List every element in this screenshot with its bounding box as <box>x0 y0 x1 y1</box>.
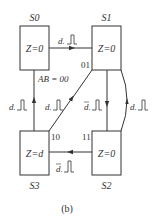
transition-s0-s1: d. <box>49 35 92 48</box>
condition-d-bar: d. <box>84 102 91 112</box>
state-s1-name: S1 <box>102 12 112 23</box>
state-s3-name: S3 <box>30 180 40 191</box>
transition-s1-s2: d. <box>84 70 107 131</box>
condition-d: d. <box>130 102 137 112</box>
clock-pulse-icon <box>53 100 63 110</box>
state-s2-name: S2 <box>102 180 112 191</box>
state-s1: S1 Z=0 <box>92 12 121 70</box>
state-code-s1: 01 <box>81 60 90 70</box>
state-code-s3: 10 <box>51 132 61 142</box>
transition-s2-s3: d. <box>49 152 92 174</box>
clock-pulse-icon <box>17 100 27 110</box>
state-code-s0: AB = 00 <box>37 74 69 84</box>
state-s1-output: Z=0 <box>98 43 115 54</box>
clock-pulse-icon <box>67 35 77 44</box>
transition-s2-s1: d. <box>121 70 148 131</box>
condition-d: d. <box>58 36 65 46</box>
condition-d: d. <box>45 102 52 112</box>
state-s0-output: Z=0 <box>26 43 43 54</box>
clock-pulse-icon <box>92 100 102 110</box>
transition-s3-s0: d. <box>9 70 34 131</box>
state-s0-name: S0 <box>30 12 40 23</box>
state-s2: S2 Z=0 <box>92 131 121 191</box>
figure-caption: (b) <box>61 203 73 215</box>
state-s2-output: Z=0 <box>98 148 115 159</box>
condition-d-bar: d. <box>56 164 63 174</box>
state-s3-output: Z=d <box>26 148 44 159</box>
clock-pulse-icon <box>64 161 74 172</box>
state-s3: S3 Z=d <box>20 131 49 191</box>
condition-d: d. <box>9 102 16 112</box>
state-diagram: S0 Z=0 S1 Z=0 S3 Z=d S2 Z=0 AB = 00 01 1… <box>0 0 161 221</box>
state-s0: S0 Z=0 <box>20 12 49 70</box>
clock-pulse-icon <box>138 100 148 110</box>
state-code-s2: 11 <box>82 132 91 142</box>
